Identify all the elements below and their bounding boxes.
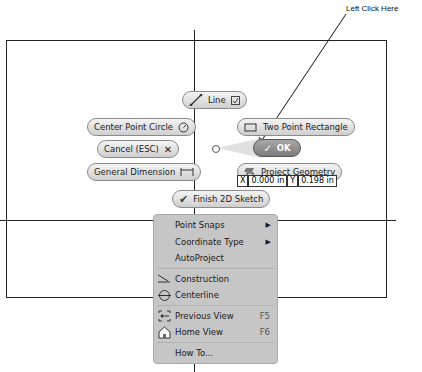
x-label: X <box>237 175 248 187</box>
circle-icon <box>178 122 189 133</box>
menu-item-centerline[interactable]: Centerline <box>154 287 277 303</box>
line-button[interactable]: Line <box>182 91 247 109</box>
general-dimension-label: General Dimension <box>94 167 175 177</box>
rectangle-icon <box>244 122 258 132</box>
menu-separator <box>157 305 275 306</box>
cancel-button[interactable]: Cancel (ESC) ✕ <box>97 140 179 158</box>
line-icon <box>189 94 203 106</box>
ok-label: OK <box>277 143 291 153</box>
menu-item-construction[interactable]: Construction <box>154 271 277 287</box>
center-point-circle-label: Center Point Circle <box>94 122 173 132</box>
close-icon: ✕ <box>164 144 172 155</box>
two-point-rectangle-label: Two Point Rectangle <box>263 122 348 132</box>
submenu-arrow-icon: ▶ <box>266 221 271 229</box>
context-menu: Point Snaps ▶ Coordinate Type ▶ AutoProj… <box>153 214 278 364</box>
y-label: Y <box>287 175 298 187</box>
y-value-field[interactable]: 0.198 in <box>298 175 337 187</box>
centerline-icon <box>157 288 171 302</box>
check-icon: ✓ <box>263 143 271 154</box>
x-value-field[interactable]: 0.000 in <box>248 175 287 187</box>
center-point-circle-button[interactable]: Center Point Circle <box>87 118 196 136</box>
menu-item-coordinate-type[interactable]: Coordinate Type ▶ <box>154 234 277 250</box>
construction-icon <box>157 272 171 286</box>
cancel-label: Cancel (ESC) <box>104 144 159 154</box>
home-view-icon <box>157 325 171 339</box>
menu-separator <box>157 268 275 269</box>
dimension-icon <box>180 167 194 177</box>
finish-sketch-button[interactable]: ✔ Finish 2D Sketch <box>172 190 270 208</box>
menu-item-how-to[interactable]: How To... <box>154 345 277 361</box>
two-point-rectangle-button[interactable]: Two Point Rectangle <box>237 118 355 136</box>
ok-button[interactable]: ✓ OK <box>253 139 301 157</box>
menu-separator <box>157 342 275 343</box>
checkbox-icon <box>231 96 240 105</box>
line-label: Line <box>208 95 226 105</box>
menu-item-previous-view[interactable]: Previous View F5 <box>154 308 277 324</box>
previous-view-icon <box>157 309 171 323</box>
check-icon: ✔ <box>179 193 188 206</box>
submenu-arrow-icon: ▶ <box>266 238 271 246</box>
marking-menu-center <box>212 145 220 153</box>
menu-item-autoproject[interactable]: AutoProject <box>154 250 277 266</box>
menu-item-point-snaps[interactable]: Point Snaps ▶ <box>154 217 277 233</box>
general-dimension-button[interactable]: General Dimension <box>87 163 201 181</box>
finish-sketch-label: Finish 2D Sketch <box>193 194 263 204</box>
menu-item-home-view[interactable]: Home View F6 <box>154 324 277 340</box>
coordinate-input[interactable]: X 0.000 in Y 0.198 in <box>237 175 337 187</box>
